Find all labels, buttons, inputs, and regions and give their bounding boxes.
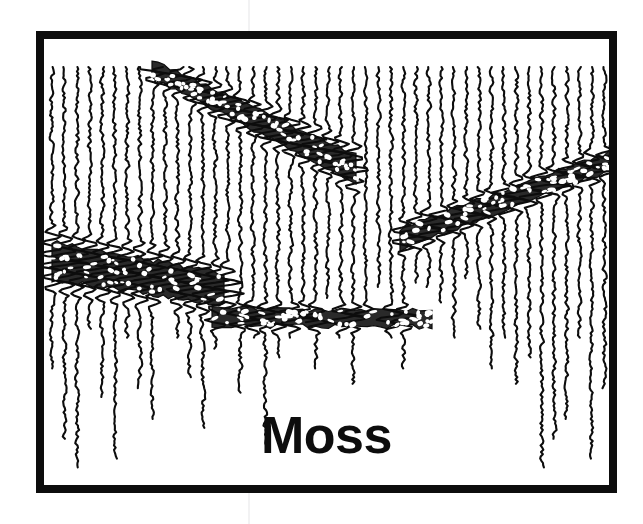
framed-figure-panel: Moss bbox=[36, 31, 617, 493]
wiggle-trace bbox=[377, 67, 403, 338]
figure-root: Moss bbox=[0, 0, 643, 524]
band-speckle bbox=[225, 321, 229, 324]
reflection-band bbox=[152, 61, 356, 184]
wiggle-trace bbox=[441, 67, 468, 338]
wiggle-trace bbox=[125, 67, 154, 388]
band-speckle bbox=[137, 287, 142, 291]
wiggle-trace bbox=[376, 67, 380, 287]
wiggle-trace bbox=[353, 67, 373, 318]
band-speckle bbox=[224, 105, 230, 108]
figure-caption: Moss bbox=[44, 409, 609, 461]
wiggle-trace bbox=[44, 67, 66, 368]
wiggle-trace bbox=[502, 67, 530, 384]
